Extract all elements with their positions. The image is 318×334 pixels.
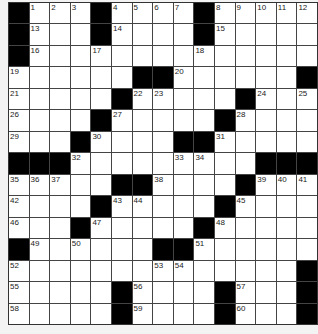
grid-cell[interactable]: [91, 239, 111, 259]
grid-cell[interactable]: 55: [9, 282, 29, 302]
grid-cell[interactable]: [50, 132, 70, 152]
grid-cell[interactable]: 22: [133, 89, 153, 109]
grid-cell[interactable]: [215, 89, 235, 109]
grid-cell[interactable]: [30, 218, 50, 238]
grid-cell[interactable]: 52: [9, 261, 29, 281]
grid-cell[interactable]: [297, 110, 317, 130]
grid-cell[interactable]: [50, 67, 70, 87]
grid-cell[interactable]: [71, 67, 91, 87]
grid-cell[interactable]: 42: [9, 196, 29, 216]
grid-cell[interactable]: [174, 218, 194, 238]
grid-cell[interactable]: 45: [236, 196, 256, 216]
grid-cell[interactable]: [215, 46, 235, 66]
grid-cell[interactable]: [91, 67, 111, 87]
grid-cell[interactable]: [30, 261, 50, 281]
grid-cell[interactable]: [112, 261, 132, 281]
grid-cell[interactable]: [71, 282, 91, 302]
grid-cell[interactable]: [277, 110, 297, 130]
grid-cell[interactable]: [256, 282, 276, 302]
grid-cell[interactable]: 43: [112, 196, 132, 216]
grid-cell[interactable]: [215, 261, 235, 281]
grid-cell[interactable]: [194, 196, 214, 216]
grid-cell[interactable]: [297, 46, 317, 66]
grid-cell[interactable]: 4: [112, 3, 132, 23]
grid-cell[interactable]: 16: [30, 46, 50, 66]
grid-cell[interactable]: 60: [236, 304, 256, 324]
grid-cell[interactable]: 9: [236, 3, 256, 23]
grid-cell[interactable]: 51: [194, 239, 214, 259]
grid-cell[interactable]: [50, 89, 70, 109]
grid-cell[interactable]: 40: [277, 175, 297, 195]
grid-cell[interactable]: [91, 304, 111, 324]
grid-cell[interactable]: 21: [9, 89, 29, 109]
grid-cell[interactable]: [236, 67, 256, 87]
grid-cell[interactable]: [153, 153, 173, 173]
grid-cell[interactable]: [174, 304, 194, 324]
grid-cell[interactable]: [112, 218, 132, 238]
grid-cell[interactable]: [153, 282, 173, 302]
grid-cell[interactable]: [91, 261, 111, 281]
grid-cell[interactable]: [50, 282, 70, 302]
grid-cell[interactable]: [112, 239, 132, 259]
grid-cell[interactable]: [215, 153, 235, 173]
grid-cell[interactable]: [133, 153, 153, 173]
grid-cell[interactable]: [91, 153, 111, 173]
grid-cell[interactable]: [277, 282, 297, 302]
grid-cell[interactable]: [194, 261, 214, 281]
grid-cell[interactable]: [153, 218, 173, 238]
grid-cell[interactable]: [194, 67, 214, 87]
grid-cell[interactable]: [236, 132, 256, 152]
grid-cell[interactable]: [256, 24, 276, 44]
grid-cell[interactable]: [50, 46, 70, 66]
grid-cell[interactable]: 39: [256, 175, 276, 195]
grid-cell[interactable]: [194, 304, 214, 324]
grid-cell[interactable]: [277, 46, 297, 66]
grid-cell[interactable]: [236, 153, 256, 173]
grid-cell[interactable]: [236, 24, 256, 44]
grid-cell[interactable]: [174, 46, 194, 66]
grid-cell[interactable]: [236, 239, 256, 259]
grid-cell[interactable]: 5: [133, 3, 153, 23]
grid-cell[interactable]: [277, 196, 297, 216]
grid-cell[interactable]: [91, 175, 111, 195]
grid-cell[interactable]: 15: [215, 24, 235, 44]
grid-cell[interactable]: [256, 110, 276, 130]
grid-cell[interactable]: [153, 110, 173, 130]
grid-cell[interactable]: [277, 239, 297, 259]
grid-cell[interactable]: 59: [133, 304, 153, 324]
grid-cell[interactable]: [71, 304, 91, 324]
grid-cell[interactable]: [50, 196, 70, 216]
grid-cell[interactable]: 48: [215, 218, 235, 238]
grid-cell[interactable]: [153, 24, 173, 44]
grid-cell[interactable]: [112, 153, 132, 173]
grid-cell[interactable]: 41: [297, 175, 317, 195]
grid-cell[interactable]: 17: [91, 46, 111, 66]
grid-cell[interactable]: 10: [256, 3, 276, 23]
grid-cell[interactable]: [71, 46, 91, 66]
grid-cell[interactable]: [71, 110, 91, 130]
grid-cell[interactable]: [277, 24, 297, 44]
grid-cell[interactable]: [194, 175, 214, 195]
grid-cell[interactable]: [236, 261, 256, 281]
grid-cell[interactable]: [215, 67, 235, 87]
grid-cell[interactable]: [256, 196, 276, 216]
grid-cell[interactable]: [112, 132, 132, 152]
grid-cell[interactable]: 19: [9, 67, 29, 87]
grid-cell[interactable]: 23: [153, 89, 173, 109]
grid-cell[interactable]: 49: [30, 239, 50, 259]
grid-cell[interactable]: [50, 304, 70, 324]
grid-cell[interactable]: [30, 282, 50, 302]
grid-cell[interactable]: 29: [9, 132, 29, 152]
grid-cell[interactable]: [297, 24, 317, 44]
grid-cell[interactable]: [277, 67, 297, 87]
grid-cell[interactable]: [174, 175, 194, 195]
grid-cell[interactable]: 24: [256, 89, 276, 109]
grid-cell[interactable]: [256, 239, 276, 259]
grid-cell[interactable]: [91, 282, 111, 302]
grid-cell[interactable]: [30, 89, 50, 109]
grid-cell[interactable]: 13: [30, 24, 50, 44]
grid-cell[interactable]: 26: [9, 110, 29, 130]
grid-cell[interactable]: [256, 261, 276, 281]
grid-cell[interactable]: [133, 46, 153, 66]
grid-cell[interactable]: [277, 261, 297, 281]
